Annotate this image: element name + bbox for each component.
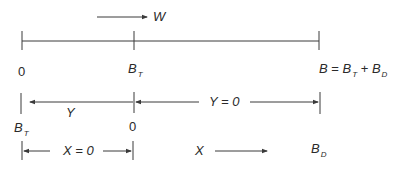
y-equals-zero-label: Y = 0 [209,95,239,108]
eq-term1-sub: T [352,70,357,79]
x-equals-zero-label: X = 0 [63,144,94,157]
eq-lhs: B [319,61,328,76]
row2-bt-label: BT [14,121,29,134]
eq-sign: = [328,61,343,76]
top-zero-label: 0 [18,65,25,78]
w-label: W [153,10,165,23]
bd-label: BD [311,142,326,155]
y-label: Y [66,106,75,119]
eq-plus: + [357,61,372,76]
bd-sub: D [321,150,327,159]
row2-bt-sub: T [24,129,29,138]
b-equation-label: B = BT + BD [319,62,387,75]
x-label: X [195,144,204,157]
bd-main: B [311,141,320,156]
row2-zero-label: 0 [129,120,136,133]
eq-term1: B [343,61,352,76]
eq-term2: B [372,61,381,76]
bt-main: B [128,61,137,76]
top-bt-label: BT [128,62,143,75]
eq-term2-sub: D [382,70,388,79]
row2-bt-main: B [14,120,23,135]
bt-sub: T [138,70,143,79]
